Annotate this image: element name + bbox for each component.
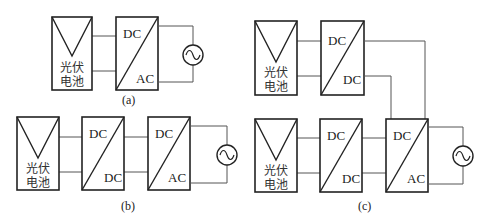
pv-cell-block-top: 光伏 电池: [255, 21, 297, 95]
wire: [428, 166, 463, 184]
pv-label-line2: 电池: [264, 178, 288, 192]
pv-cell-block: 光伏 电池: [52, 17, 92, 90]
dc-dc-converter-block-top: DC DC: [321, 21, 364, 95]
wire: [158, 26, 193, 45]
dc-dc-converter-block-bottom: DC DC: [320, 119, 362, 192]
caption-c: (c): [358, 199, 371, 213]
inverter-input-label: DC: [123, 26, 141, 41]
inverter-input-label: DC: [155, 126, 173, 141]
dc-dc-converter-block: DC DC: [82, 117, 124, 190]
pv-label-line1: 光伏: [264, 66, 288, 80]
caption-a: (a): [122, 93, 135, 107]
pv-cell-block-bottom: 光伏 电池: [255, 119, 297, 192]
diagram-b: 光伏 电池 DC DC DC AC (b): [17, 117, 237, 213]
inverter-output-label: AC: [168, 170, 186, 185]
dc-ac-inverter-block: DC AC: [148, 117, 190, 190]
wire: [364, 76, 391, 119]
converter-output-label: DC: [342, 171, 360, 186]
pv-label-line2: 电池: [264, 80, 288, 94]
wire: [428, 127, 463, 146]
converter-output-label: DC: [343, 72, 361, 87]
ac-source-icon: [453, 146, 473, 166]
ac-source-icon: [217, 145, 237, 165]
pv-label-line1: 光伏: [264, 164, 288, 178]
converter-output-label: DC: [104, 170, 122, 185]
converter-input-label: DC: [328, 33, 346, 48]
pv-cell-block: 光伏 电池: [17, 117, 59, 190]
wire: [158, 65, 193, 82]
inverter-input-label: DC: [393, 128, 411, 143]
converter-input-label: DC: [327, 128, 345, 143]
ac-source-icon: [183, 45, 203, 65]
diagram-a: 光伏 电池 DC AC (a): [52, 17, 203, 107]
dc-ac-inverter-block: DC AC: [116, 17, 158, 90]
pv-label-line2: 电池: [26, 176, 50, 190]
wire: [190, 126, 227, 145]
converter-input-label: DC: [89, 126, 107, 141]
pv-label-line2: 电池: [60, 75, 84, 89]
inverter-output-label: AC: [136, 71, 154, 86]
pv-label-line1: 光伏: [26, 162, 50, 176]
wire: [190, 165, 227, 183]
dc-ac-inverter-block: DC AC: [386, 119, 428, 192]
pv-label-line1: 光伏: [60, 61, 84, 75]
caption-b: (b): [121, 199, 135, 213]
pv-topology-diagrams: 光伏 电池 DC AC (a) 光伏 电池: [0, 0, 487, 224]
inverter-output-label: AC: [407, 171, 425, 186]
wire: [364, 41, 425, 119]
diagram-c: 光伏 电池 DC DC 光伏 电池 DC DC: [255, 21, 473, 213]
